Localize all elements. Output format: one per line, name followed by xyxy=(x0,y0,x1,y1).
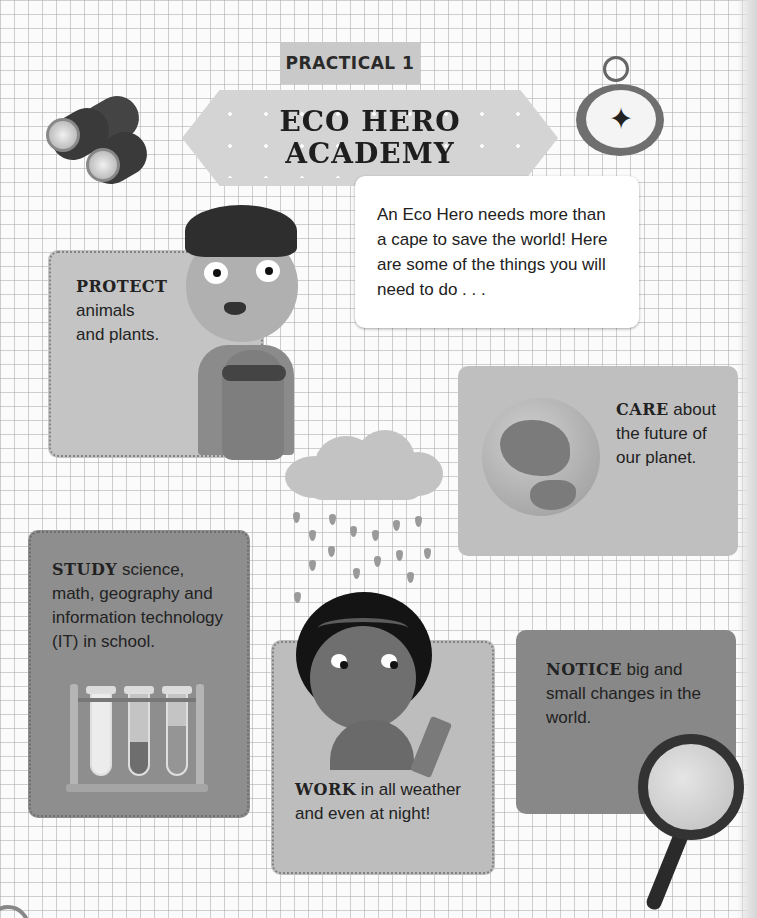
boy-eye-left xyxy=(204,262,228,284)
care-keyword: CARE xyxy=(616,400,669,419)
compass-ring xyxy=(603,56,629,82)
test-tubes-icon xyxy=(66,684,208,796)
binoculars-icon xyxy=(42,90,172,190)
study-keyword: STUDY xyxy=(52,560,117,579)
raindrop-icon xyxy=(396,550,403,561)
raindrop-icon xyxy=(372,530,379,541)
raindrop-icon xyxy=(415,516,422,527)
raindrop-icon xyxy=(328,546,335,557)
raindrop-icon xyxy=(424,548,431,559)
raindrop-icon xyxy=(293,512,300,523)
raindrop-icon xyxy=(350,526,357,537)
raindrop-icon xyxy=(294,592,301,603)
page-number-circle xyxy=(0,905,30,918)
girl-headband xyxy=(318,618,408,638)
raindrop-icon xyxy=(374,556,381,567)
title-banner: ECO HERO ACADEMY xyxy=(182,90,558,186)
rain-cloud-icon xyxy=(285,430,443,500)
practical-tab: PRACTICAL 1 xyxy=(280,42,420,84)
intro-text: An Eco Hero needs more than a cape to sa… xyxy=(377,205,608,299)
raindrop-icon xyxy=(309,530,316,541)
magnifying-glass-icon xyxy=(638,734,744,840)
raindrop-icon xyxy=(353,568,360,579)
girl-eye-right xyxy=(381,654,397,668)
compass-rose-icon: ✦ xyxy=(604,100,638,138)
work-keyword: WORK xyxy=(295,780,356,799)
raindrop-icon xyxy=(393,520,400,531)
sloth-mask xyxy=(222,365,286,381)
raindrop-icon xyxy=(407,572,414,583)
boy-hair xyxy=(185,205,297,257)
page-title-line-2: ACADEMY xyxy=(285,138,454,170)
girl-face xyxy=(310,626,416,730)
intro-box: An Eco Hero needs more than a cape to sa… xyxy=(355,176,639,328)
raindrop-icon xyxy=(309,560,316,571)
notice-keyword: NOTICE xyxy=(546,660,622,679)
page-title-line-1: ECO HERO xyxy=(279,106,460,138)
girl-eye-left xyxy=(331,654,347,668)
practical-label: PRACTICAL 1 xyxy=(286,53,415,73)
boy-mouth xyxy=(224,302,246,315)
boy-eye-right xyxy=(256,260,280,282)
raindrop-icon xyxy=(329,514,336,525)
